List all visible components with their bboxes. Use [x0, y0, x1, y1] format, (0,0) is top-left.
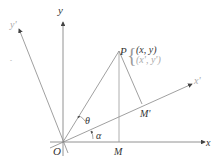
angle-theta-arc [78, 117, 85, 121]
y-prime-axis-label: y' [9, 19, 17, 30]
stray-mark: - [10, 57, 12, 63]
x-axis-label: x [205, 137, 211, 148]
foot-m-prime-label: M' [139, 108, 151, 119]
segment-op [63, 51, 119, 142]
angle-alpha-label: α [96, 130, 102, 141]
foot-m-label: M [113, 146, 123, 157]
coords-prime-label: (x', y') [136, 54, 161, 66]
angle-theta-label: θ [85, 115, 90, 126]
angle-alpha-arc [91, 131, 93, 139]
x-prime-axis [50, 84, 192, 148]
rotation-diagram: y y' x' x O P { (x, y) (x', y') M' M θ α… [0, 0, 215, 165]
y-prime-axis [19, 29, 68, 153]
origin-label: O [53, 145, 61, 157]
x-prime-axis-label: x' [193, 75, 201, 86]
point-p-label: P [119, 45, 127, 57]
y-axis-label: y [57, 4, 63, 16]
